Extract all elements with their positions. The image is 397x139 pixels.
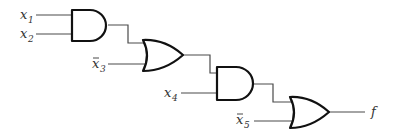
output-label-f: f bbox=[370, 104, 378, 119]
input-x1-base: x bbox=[20, 7, 28, 22]
input-label-x1: x 1 bbox=[20, 7, 34, 25]
input-x2-base: x bbox=[20, 26, 28, 41]
and-gate-1 bbox=[72, 10, 106, 41]
input-x5-sub: 5 bbox=[244, 120, 250, 130]
input-x3-base: x bbox=[92, 56, 100, 71]
input-x2-sub: 2 bbox=[27, 34, 34, 44]
and-gate-2 bbox=[217, 67, 253, 100]
input-x1-sub: 1 bbox=[28, 15, 34, 25]
or-gate-2 bbox=[290, 97, 329, 128]
logic-circuit-diagram: x 1 x 2 x 3 x 4 x 5 f bbox=[0, 0, 397, 139]
input-label-x5-bar: x 5 bbox=[236, 112, 250, 130]
input-label-x4: x 4 bbox=[164, 85, 178, 103]
input-x5-base: x bbox=[236, 112, 244, 127]
or-gate-1 bbox=[143, 40, 183, 71]
wire-g2-g3 bbox=[183, 55, 217, 73]
input-x4-sub: 4 bbox=[171, 93, 178, 103]
input-label-x3-bar: x 3 bbox=[92, 56, 106, 74]
wire-g3-g4 bbox=[254, 84, 293, 102]
input-x4-base: x bbox=[164, 85, 172, 100]
input-x3-sub: 3 bbox=[100, 64, 106, 74]
input-label-x2: x 2 bbox=[20, 26, 34, 44]
wire-g1-g2 bbox=[108, 25, 146, 43]
